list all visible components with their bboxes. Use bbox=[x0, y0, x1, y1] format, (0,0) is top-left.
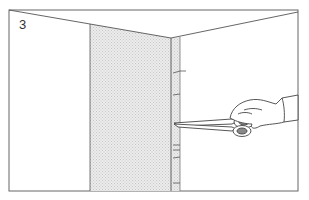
wallpaper-strip bbox=[90, 24, 171, 191]
wallpaper-corner-illustration bbox=[0, 0, 309, 200]
wallpaper-overlap-strip bbox=[171, 37, 180, 191]
step-number: 3 bbox=[19, 18, 26, 31]
